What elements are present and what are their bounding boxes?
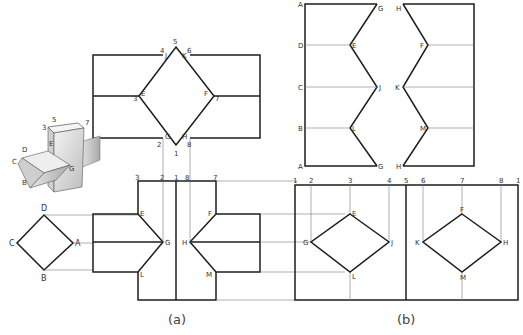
label-5: 5: [173, 38, 177, 46]
pic-label-C: C: [12, 158, 17, 166]
col-label-2: 2: [160, 174, 164, 182]
dev-col-label-7: 7: [460, 177, 464, 185]
pic-label-E: E: [49, 140, 53, 148]
dev-col-label-J: J: [390, 239, 393, 247]
col-label-3: 3: [135, 174, 139, 182]
pic-label-5: 5: [52, 116, 56, 124]
dev-label-A-top: A: [298, 1, 303, 9]
dev-col-label-1a: 1: [293, 177, 297, 185]
dev-prism-right-zigzag: [403, 4, 428, 166]
dev-col-label-3: 3: [348, 177, 352, 185]
dev-label-K: K: [395, 84, 400, 92]
end-label-B: B: [41, 274, 47, 283]
development-prism: A D C B A G H E F J K L M G H: [298, 1, 474, 171]
front-view: 3 2 1 8 7 E G L F H M (a): [93, 174, 345, 327]
dev-prism-left: [305, 4, 377, 166]
top-view-column-diamond: [139, 47, 214, 145]
end-label-C: C: [9, 239, 15, 248]
end-label-A: A: [75, 239, 81, 248]
dev-label-F: F: [420, 42, 424, 50]
caption-a: (a): [168, 312, 186, 327]
dev-label-J: J: [378, 84, 381, 92]
label-F: F: [204, 90, 208, 98]
dev-label-L: L: [352, 125, 356, 133]
dev-col-label-L: L: [352, 273, 356, 281]
intersecting-prisms-drawing: 5 4 J K 6 3 E F 7 G H 2 8 1: [0, 0, 523, 335]
dev-hole-right: [423, 214, 501, 272]
dev-hole-left: [311, 214, 389, 272]
dev-col-label-8: 8: [499, 177, 503, 185]
end-view-diamond: [17, 215, 73, 270]
pic-label-B: B: [22, 179, 27, 187]
dev-label-A-bottom: A: [298, 163, 303, 171]
dev-col-label-2: 2: [309, 177, 313, 185]
dev-label-H-bottom: H: [396, 163, 401, 171]
label-7: 7: [215, 95, 219, 103]
end-label-D: D: [41, 204, 47, 213]
intersection-right: [190, 214, 216, 272]
dev-prism-right: [403, 4, 474, 166]
label-J: J: [164, 52, 167, 60]
dev-label-M: M: [420, 125, 426, 133]
dev-col-label-E: E: [352, 210, 356, 218]
col-label-1: 1: [174, 174, 178, 182]
dev-col-label-6: 6: [421, 177, 426, 185]
label-G: G: [165, 133, 170, 141]
dev-label-D: D: [298, 42, 303, 50]
dev-label-B: B: [298, 125, 303, 133]
dev-col-label-H: H: [503, 239, 508, 247]
col-label-7: 7: [213, 174, 217, 182]
pic-label-7: 7: [85, 119, 89, 127]
dev-label-G-bottom: G: [378, 163, 383, 171]
dev-label-E: E: [352, 42, 356, 50]
label-1: 1: [174, 150, 178, 158]
dev-prism-left-zigzag: [350, 4, 377, 166]
development-column: 1 2 3 4 5 6 7 8 1 E G J L F K H M (b): [293, 177, 520, 327]
dev-col-label-4: 4: [387, 177, 392, 185]
label-3: 3: [133, 95, 137, 103]
col-label-8: 8: [185, 174, 189, 182]
front-label-L: L: [140, 271, 144, 279]
dev-col-label-K: K: [415, 239, 420, 247]
pic-label-D: D: [22, 146, 27, 154]
caption-b: (b): [397, 312, 415, 327]
pictorial-sketch: 5 3 7 E D C B G: [12, 116, 100, 192]
label-H: H: [182, 133, 187, 141]
dev-col-label-G: G: [303, 239, 308, 247]
dev-label-C: C: [298, 84, 303, 92]
front-label-E: E: [140, 210, 144, 218]
front-label-H: H: [182, 239, 187, 247]
front-label-M: M: [206, 271, 212, 279]
intersection-left: [138, 214, 163, 272]
dev-label-G-top: G: [378, 5, 383, 13]
dev-col-label-1b: 1: [516, 177, 520, 185]
label-8: 8: [187, 141, 191, 149]
pic-label-G: G: [69, 165, 74, 173]
dev-label-H-top: H: [396, 5, 401, 13]
dev-col-label-M: M: [460, 274, 466, 282]
top-view: 5 4 J K 6 3 E F 7 G H 2 8 1: [93, 38, 260, 181]
label-E: E: [141, 90, 145, 98]
label-6: 6: [187, 47, 192, 55]
dev-col-label-5: 5: [404, 177, 408, 185]
label-2: 2: [157, 141, 161, 149]
front-label-G: G: [165, 239, 170, 247]
pic-label-3: 3: [42, 124, 46, 132]
front-label-F: F: [208, 210, 212, 218]
dev-col-label-F: F: [460, 206, 464, 214]
end-view: D C A B: [9, 204, 138, 283]
